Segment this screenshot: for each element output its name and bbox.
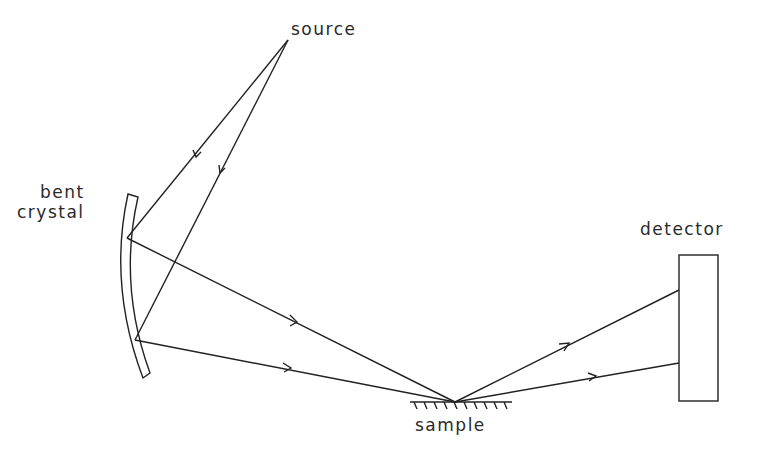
beam-sample-to-detector-lower: [455, 363, 679, 402]
beam-source-to-crystal-upper: [127, 40, 288, 238]
sample-hatching: [414, 402, 507, 409]
beam-crystal-lower-to-sample: [135, 340, 455, 402]
detector-label: detector: [640, 220, 724, 238]
detector-box: [679, 255, 718, 401]
beam-crystal-upper-to-sample: [127, 238, 455, 402]
arrow-icon: [588, 373, 596, 381]
sample-label: sample: [415, 416, 486, 434]
source-label: source: [291, 20, 356, 38]
bent-crystal-shape: [121, 194, 150, 378]
beam-source-to-crystal-lower: [135, 40, 288, 340]
bent-crystal-label-line2: crystal: [17, 203, 85, 221]
bent-crystal-label-line1: bent: [40, 183, 85, 201]
